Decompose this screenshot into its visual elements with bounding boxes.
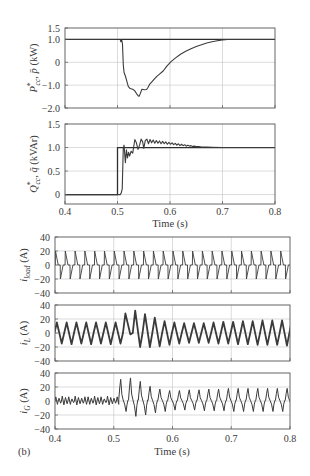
series-line-measured <box>54 311 299 347</box>
grid-lines <box>65 124 275 204</box>
series-group <box>54 311 299 347</box>
plot-inductor-current: 40200−20−40 <box>34 300 299 367</box>
plot-grid-current: 40200−20−400.40.50.60.70.8 <box>34 368 296 445</box>
y-tick-label: 20 <box>40 382 50 393</box>
y-tick-label: 0 <box>55 57 60 68</box>
y-tick-label: −40 <box>34 288 50 299</box>
y-tick-label: 20 <box>40 314 50 325</box>
y-tick-label: 0 <box>55 189 60 200</box>
y-axis-label-reactive-power: Q*cc, q̄ (kVAr) <box>26 135 42 193</box>
x-tick-label: 0.7 <box>216 206 229 217</box>
label-unit: (kW) <box>28 43 40 68</box>
y-axis-label-load-current: iload (A) <box>18 248 32 282</box>
x-tick-label: 0.5 <box>111 206 124 217</box>
figure: 1.51.00−1.0−2.0 P*cc, p̄ (kW) 1.51.00.50… <box>0 0 310 476</box>
x-axis-label-bottom: Time (s) <box>154 446 190 458</box>
y-tick-label: 20 <box>40 246 50 257</box>
y-axis-label-grid-current: iG (A) <box>18 388 32 414</box>
y-tick-label: 40 <box>40 232 50 243</box>
y-tick-label: −20 <box>34 274 50 285</box>
x-tick-label: 0.6 <box>166 433 179 444</box>
y-tick-label: 1.5 <box>48 119 61 130</box>
label-unit: (A) <box>18 320 30 338</box>
x-tick-label: 0.5 <box>108 433 121 444</box>
x-tick-label: 0.7 <box>225 433 238 444</box>
y-tick-label: 0.5 <box>48 166 61 177</box>
x-tick-label: 0.4 <box>59 206 72 217</box>
y-tick-label: −20 <box>34 410 50 421</box>
x-axis-label-top: Time (s) <box>152 218 188 230</box>
y-tick-label: −20 <box>34 342 50 353</box>
y-tick-label: 1.0 <box>48 34 61 45</box>
plot-reactive-power: 1.51.00.500.40.50.60.70.8 <box>48 119 282 218</box>
plot-active-power: 1.51.00−1.0−2.0 <box>42 23 275 114</box>
panel-label: (b) <box>18 446 31 458</box>
label-sub: load <box>23 265 32 279</box>
plot-load-current: 40200−20−40 <box>34 232 290 299</box>
y-tick-label: 1.0 <box>48 142 61 153</box>
x-tick-label: 0.8 <box>284 433 297 444</box>
x-tick-label: 0.8 <box>269 206 282 217</box>
y-tick-label: −2.0 <box>42 103 60 114</box>
x-tick-label: 0.6 <box>164 206 177 217</box>
x-tick-label: 0.4 <box>49 433 62 444</box>
y-tick-label: 0 <box>45 396 50 407</box>
y-axis-label-active-power: P*cc, p̄ (kW) <box>26 43 42 94</box>
series-group <box>55 378 295 417</box>
label-unit: (kVAr) <box>28 135 40 168</box>
y-tick-label: −40 <box>34 424 50 435</box>
y-tick-label: −40 <box>34 356 50 367</box>
y-tick-label: 0 <box>45 328 50 339</box>
y-tick-label: 40 <box>40 300 50 311</box>
series-line-measured <box>55 378 295 417</box>
y-tick-label: 40 <box>40 368 50 379</box>
y-tick-label: 1.5 <box>48 23 61 34</box>
y-tick-label: −1.0 <box>42 80 60 91</box>
label-unit: (A) <box>18 248 30 266</box>
y-tick-label: 0 <box>45 260 50 271</box>
y-axis-label-inductor-current: iL (A) <box>18 320 32 345</box>
label-unit: (A) <box>18 388 30 406</box>
